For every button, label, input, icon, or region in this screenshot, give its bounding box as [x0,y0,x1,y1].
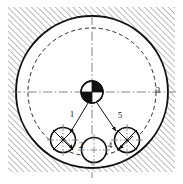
callout-label-1: 1 [70,109,75,119]
diagram-canvas: 1 2 3 4 5 [0,0,183,184]
callout-label-5: 5 [118,110,123,120]
technical-diagram: 1 2 3 4 5 [0,0,183,184]
callout-label-4: 4 [108,140,113,150]
callout-label-3: 3 [156,85,161,95]
callout-label-2: 2 [79,140,84,150]
center-hub [81,81,103,103]
